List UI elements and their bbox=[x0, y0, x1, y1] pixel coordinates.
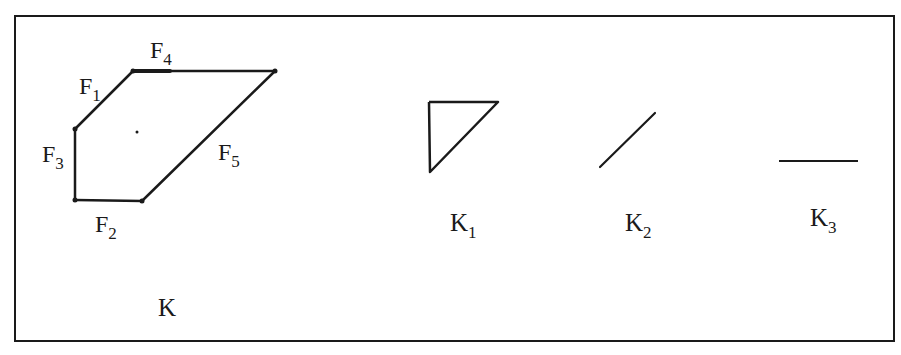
subcomplex-k1-shape bbox=[429, 102, 498, 172]
label-f1: F1 bbox=[79, 74, 101, 98]
label-k: K bbox=[158, 295, 176, 320]
label-k3: K3 bbox=[810, 205, 837, 230]
diagram-canvas bbox=[0, 0, 901, 355]
vertex bbox=[140, 199, 145, 204]
interior-point bbox=[136, 131, 139, 134]
label-k2: K2 bbox=[625, 210, 652, 235]
label-f4: F4 bbox=[150, 38, 172, 62]
edge-f5 bbox=[142, 71, 275, 201]
vertex bbox=[273, 69, 278, 74]
vertices bbox=[73, 69, 278, 204]
vertex bbox=[131, 69, 136, 74]
complex-k-shape bbox=[75, 71, 275, 201]
subcomplex-k2-shape bbox=[600, 113, 655, 167]
label-f2: F2 bbox=[95, 212, 117, 236]
label-f5: F5 bbox=[218, 140, 240, 164]
label-k1: K1 bbox=[450, 210, 477, 235]
edge-f2 bbox=[75, 200, 142, 201]
vertex bbox=[73, 198, 78, 203]
vertex bbox=[73, 127, 78, 132]
label-f3: F3 bbox=[42, 142, 64, 166]
